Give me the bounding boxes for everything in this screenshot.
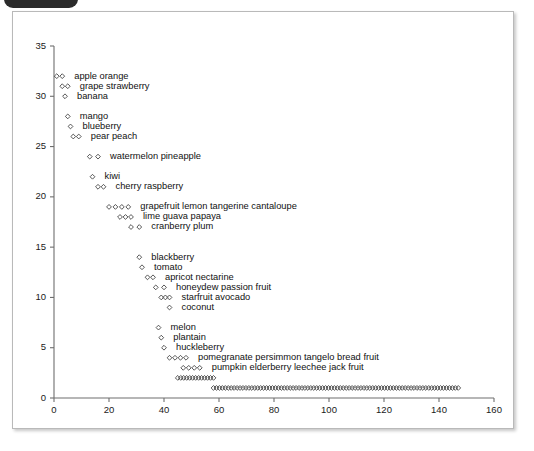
data-point-marker: [126, 205, 131, 210]
data-point-marker: [153, 285, 158, 290]
x-tick-label: 20: [104, 404, 115, 415]
point-label: watermelon pineapple: [109, 151, 201, 161]
x-tick-label: 0: [51, 404, 56, 415]
data-point-marker: [181, 365, 186, 370]
y-tick-label: 5: [41, 341, 46, 352]
data-point-marker: [87, 154, 92, 159]
point-labels-layer: apple orangegrape strawberrybananamangob…: [74, 71, 379, 373]
data-point-marker: [63, 94, 68, 99]
data-point-marker: [60, 74, 65, 79]
data-point-marker: [123, 215, 128, 220]
y-tick-label: 0: [41, 392, 46, 403]
x-tick-label: 140: [431, 404, 447, 415]
scatter-plot: 05101520253035 020406080100120140160 app…: [13, 12, 514, 429]
data-point-marker: [178, 355, 183, 360]
data-point-marker: [76, 134, 81, 139]
point-label: banana: [77, 91, 109, 101]
point-label: grapefruit lemon tangerine cantaloupe: [140, 201, 297, 211]
y-tick-label: 10: [35, 291, 46, 302]
point-label: apple orange: [74, 71, 128, 81]
y-axis: 05101520253035: [35, 40, 54, 403]
y-tick-label: 20: [35, 190, 46, 201]
point-label: blueberry: [83, 121, 122, 131]
data-point-marker: [113, 205, 118, 210]
data-point-marker: [167, 305, 172, 310]
point-label: kiwi: [105, 171, 121, 181]
point-label: plantain: [173, 332, 206, 342]
point-label: cranberry plum: [151, 221, 213, 231]
data-point-marker: [96, 154, 101, 159]
x-tick-label: 160: [486, 404, 502, 415]
data-point-marker: [101, 184, 106, 189]
data-point-marker: [140, 265, 145, 270]
data-point-marker: [96, 184, 101, 189]
data-point-marker: [129, 215, 134, 220]
data-point-marker: [90, 174, 95, 179]
data-point-marker: [65, 84, 70, 89]
data-point-marker: [192, 365, 197, 370]
point-label: pear peach: [91, 131, 138, 141]
point-label: melon: [171, 322, 196, 332]
x-tick-label: 80: [269, 404, 280, 415]
data-point-marker: [156, 325, 161, 330]
y-tick-label: 15: [35, 241, 46, 252]
data-point-marker: [184, 355, 189, 360]
point-label: blackberry: [151, 252, 194, 262]
point-label: cherry raspberry: [116, 181, 184, 191]
data-point-marker: [151, 275, 156, 280]
data-point-marker: [145, 275, 150, 280]
y-tick-label: 35: [35, 40, 46, 51]
point-label: lime guava papaya: [143, 211, 222, 221]
point-label: pomegranate persimmon tangelo bread frui…: [198, 352, 379, 362]
data-point-marker: [162, 345, 167, 350]
data-point-marker: [54, 74, 59, 79]
point-label: coconut: [182, 302, 215, 312]
data-point-marker: [159, 335, 164, 340]
data-point-marker: [68, 124, 73, 129]
point-label: grape strawberry: [80, 81, 150, 91]
point-label: pumpkin elderberry leechee jack fruit: [212, 362, 364, 372]
data-point-marker: [162, 285, 167, 290]
x-tick-label: 100: [321, 404, 337, 415]
data-point-marker: [60, 84, 65, 89]
data-point-marker: [119, 205, 124, 210]
x-tick-label: 60: [214, 404, 225, 415]
y-tick-label: 30: [35, 90, 46, 101]
point-label: honeydew passion fruit: [176, 282, 272, 292]
data-point-marker: [65, 114, 70, 119]
data-point-marker: [129, 225, 134, 230]
y-tick-label: 25: [35, 140, 46, 151]
data-point-marker: [186, 365, 191, 370]
point-label: starfruit avocado: [182, 292, 251, 302]
data-point-marker: [137, 255, 142, 260]
point-label: mango: [80, 111, 108, 121]
x-tick-label: 120: [376, 404, 392, 415]
data-point-marker: [197, 365, 202, 370]
screenshot-root: 05101520253035 020406080100120140160 app…: [0, 0, 534, 451]
window-tab-fragment[interactable]: [4, 0, 78, 8]
data-point-marker: [118, 215, 123, 220]
point-label: apricot nectarine: [165, 272, 234, 282]
data-point-marker: [137, 225, 142, 230]
x-axis: 020406080100120140160: [51, 398, 502, 415]
data-point-marker: [167, 355, 172, 360]
chart-card: 05101520253035 020406080100120140160 app…: [12, 11, 514, 429]
x-tick-label: 40: [159, 404, 170, 415]
data-point-marker: [71, 134, 76, 139]
data-point-marker: [173, 355, 178, 360]
data-point-marker: [107, 205, 112, 210]
point-label: tomato: [154, 262, 182, 272]
point-label: huckleberry: [176, 342, 224, 352]
